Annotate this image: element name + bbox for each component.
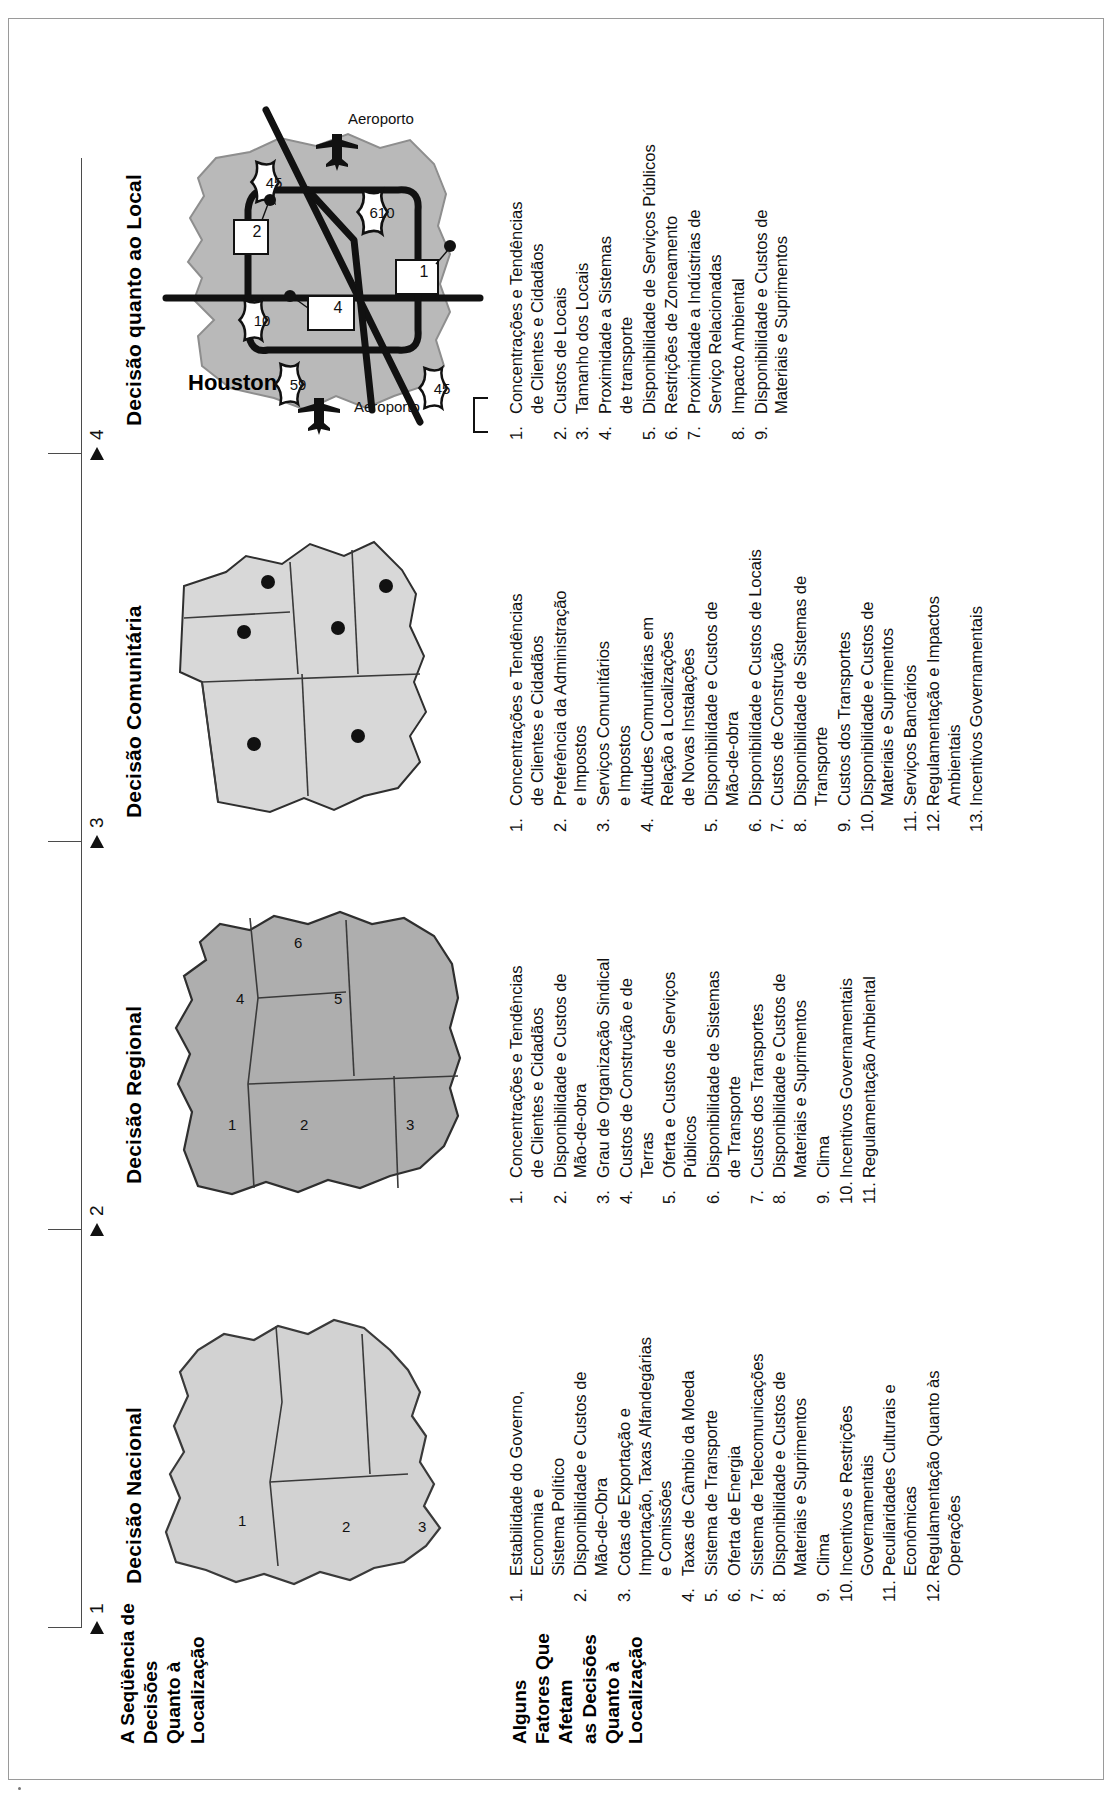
factor-number: 3. — [593, 806, 635, 832]
factor-text-line: Disponibilidade e Custos de — [751, 90, 772, 414]
factor-text-line: Disponibilidade de Sistemas — [703, 874, 724, 1178]
step-arrow-1: 1 — [82, 1603, 112, 1634]
factor-number: 1. — [506, 1576, 568, 1602]
region-number: 6 — [294, 934, 302, 951]
factor-text-line: Sistema de Telecomunicações — [747, 1272, 768, 1576]
factor-text-line: Peculiaridades Culturais e — [879, 1272, 900, 1576]
factor-item: 9.Clima — [813, 1272, 834, 1602]
factor-item: 4.Custos de Construção e deTerras — [616, 874, 658, 1204]
factor-text: Oferta de Energia — [724, 1272, 745, 1576]
factor-item: 13.Incentivos Governamentais — [966, 502, 987, 832]
column-title-site: Decisão quanto ao Local — [122, 174, 146, 426]
factor-number: 8. — [728, 414, 749, 440]
step-arrow-row: 1 2 3 4 — [82, 52, 112, 1752]
factor-text: Custos de Construção — [767, 502, 788, 806]
factor-text: Preferência da Administraçãoe Impostos — [550, 502, 592, 806]
region-map: 1 2 3 4 5 6 — [158, 874, 488, 1204]
factor-item: 3.Grau de Organização Sindical — [593, 874, 614, 1204]
factor-text-line: Grau de Organização Sindical — [593, 874, 614, 1178]
factor-text-line: Regulamentação Ambiental — [859, 874, 880, 1178]
factor-number: 8. — [790, 806, 832, 832]
factor-text-line: Oferta e Custos de Serviços — [659, 874, 680, 1178]
factors-label: Alguns Fatores Que Afetam as Decisões Qu… — [508, 1632, 647, 1744]
factor-text-line: de Clientes e Cidadãos — [527, 502, 548, 806]
factor-text-line: Preferência da Administração — [550, 502, 571, 806]
factor-number: 11. — [859, 1178, 880, 1204]
factor-text-line: Disponibilidade e Custos de — [550, 874, 571, 1178]
community-dot — [247, 737, 261, 751]
factor-text: Proximidade a Sistemasde transporte — [595, 90, 637, 414]
factor-item: 1.Concentrações e Tendênciasde Clientes … — [506, 90, 548, 440]
factor-text-line: e Impostos — [614, 502, 635, 806]
factor-number: 2. — [550, 1178, 592, 1204]
factor-number: 13. — [966, 806, 987, 832]
factor-text-line: Restrições de Zoneamento — [661, 90, 682, 414]
factor-text: Tamanho dos Locais — [572, 90, 593, 414]
factor-text-line: Materiais e Suprimentos — [790, 874, 811, 1178]
factor-text: Atitudes Comunitárias emRelação a Locali… — [637, 502, 699, 806]
region-number: 5 — [334, 990, 342, 1007]
factor-text-line: Materiais e Suprimentos — [877, 502, 898, 806]
factor-text-line: Governamentais — [857, 1272, 878, 1576]
factor-item: 5.Sistema de Transporte — [701, 1272, 722, 1602]
svg-text:45: 45 — [434, 380, 451, 397]
factor-text: Regulamentação e ImpactosAmbientais — [923, 502, 965, 806]
factor-number: 3. — [593, 1178, 614, 1204]
factor-number: 5. — [639, 414, 660, 440]
factor-item: 1.Estabilidade do Governo,Economia eSist… — [506, 1272, 568, 1602]
svg-text:1: 1 — [420, 263, 429, 280]
factor-list-national: 1.Estabilidade do Governo,Economia eSist… — [506, 1272, 964, 1602]
factor-item: 8.Disponibilidade e Custos deMateriais e… — [769, 1272, 811, 1602]
factor-number: 3. — [572, 414, 593, 440]
factor-item: 7.Custos dos Transportes — [747, 874, 768, 1204]
factor-number: 10. — [836, 1178, 857, 1204]
factor-text: Incentivos Governamentais — [836, 874, 857, 1178]
factor-item: 6.Disponibilidade e Custos de Locais — [745, 502, 766, 832]
sequence-label-line: A Seqüência de — [116, 1594, 139, 1744]
city-map: Houston 59 — [158, 90, 488, 440]
factor-item: 1.Concentrações e Tendênciasde Clientes … — [506, 502, 548, 832]
factor-text-line: Ambientais — [944, 502, 965, 806]
factor-text-line: Terras — [637, 874, 658, 1178]
factor-text: Concentrações e Tendênciasde Clientes e … — [506, 90, 548, 414]
factor-text-line: Custos de Construção e de — [616, 874, 637, 1178]
factor-text-line: Disponibilidade e Custos de — [701, 502, 722, 806]
factor-item: 11.Peculiaridades Culturais eEconômicas — [879, 1272, 921, 1602]
factor-text-line: Custos de Construção — [767, 502, 788, 806]
factor-text-line: Custos dos Transportes — [834, 502, 855, 806]
factor-text-line: Disponibilidade de Serviços Públicos — [639, 90, 660, 414]
factor-text-line: Clima — [813, 874, 834, 1178]
region-number: 2 — [342, 1518, 350, 1535]
factor-number: 3. — [614, 1576, 676, 1602]
community-dot — [379, 579, 393, 593]
sequence-label-line: Decisões — [139, 1594, 162, 1744]
factor-item: 5.Disponibilidade de Serviços Públicos — [639, 90, 660, 440]
factor-item: 10.Incentivos e RestriçõesGovernamentais — [836, 1272, 878, 1602]
community-dot — [331, 621, 345, 635]
scanned-page: A Seqüência de Decisões Quanto à Localiz… — [0, 0, 1116, 1804]
sequence-label-line: Localização — [186, 1594, 209, 1744]
factor-text-line: Disponibilidade e Custos de — [857, 502, 878, 806]
factor-text-line: de Transporte — [724, 874, 745, 1178]
factor-text: Disponibilidade e Custos deMão-de-Obra — [570, 1272, 612, 1576]
factor-text-line: Taxas de Câmbio da Moeda — [678, 1272, 699, 1576]
factor-text-line: Importação, Taxas Alfandegárias — [635, 1272, 656, 1576]
factor-text: Restrições de Zoneamento — [661, 90, 682, 414]
factor-text-line: e Impostos — [570, 502, 591, 806]
factor-text-line: Incentivos Governamentais — [966, 502, 987, 806]
factor-item: 7.Custos de Construção — [767, 502, 788, 832]
factor-number: 5. — [659, 1178, 701, 1204]
city-name-label: Houston — [188, 370, 277, 395]
factor-number: 11. — [900, 806, 921, 832]
factor-number: 4. — [595, 414, 637, 440]
factor-text-line: Regulamentação e Impactos — [923, 502, 944, 806]
factor-text-line: Econômicas — [900, 1272, 921, 1576]
airport-label: Aeroporto — [348, 110, 414, 127]
factor-text-line: Incentivos e Restrições — [836, 1272, 857, 1576]
factor-text-line: Operações — [944, 1272, 965, 1576]
factor-item: 3.Serviços Comunitáriose Impostos — [593, 502, 635, 832]
arrow-right-icon — [90, 1621, 104, 1634]
highway-shield-45-bottom: 45 — [420, 368, 451, 408]
factor-text: Custos de Construção e deTerras — [616, 874, 658, 1178]
factor-text-line: Custos de Locais — [550, 90, 571, 414]
